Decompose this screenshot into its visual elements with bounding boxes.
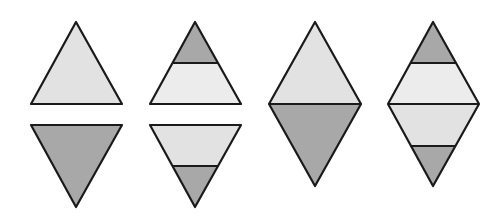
shapes-diagram — [0, 0, 501, 216]
diamond-striped — [388, 22, 479, 186]
inverted-triangle-dark — [31, 125, 122, 207]
upright-triangle-striped — [150, 22, 241, 104]
diamond-two-tone — [269, 22, 361, 186]
inverted-triangle-striped — [150, 125, 241, 207]
upright-triangle-light — [31, 22, 122, 104]
